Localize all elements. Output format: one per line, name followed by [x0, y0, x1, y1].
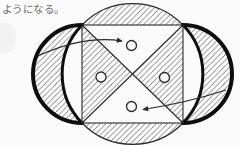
scan-smudge	[0, 22, 16, 54]
point-marker-left	[96, 72, 106, 82]
geometry-diagram	[0, 0, 240, 145]
left-lune-hatched	[33, 25, 82, 123]
right-lune-hatched	[183, 25, 232, 123]
point-marker-top	[127, 41, 137, 51]
point-marker-bottom	[127, 102, 137, 112]
point-marker-right	[160, 73, 170, 83]
textbook-figure-page: ようになる。	[0, 0, 240, 145]
top-segment-hatched	[82, 4, 183, 25]
bottom-segment-hatched	[82, 123, 183, 144]
right-triangle-hatched	[133, 25, 184, 123]
